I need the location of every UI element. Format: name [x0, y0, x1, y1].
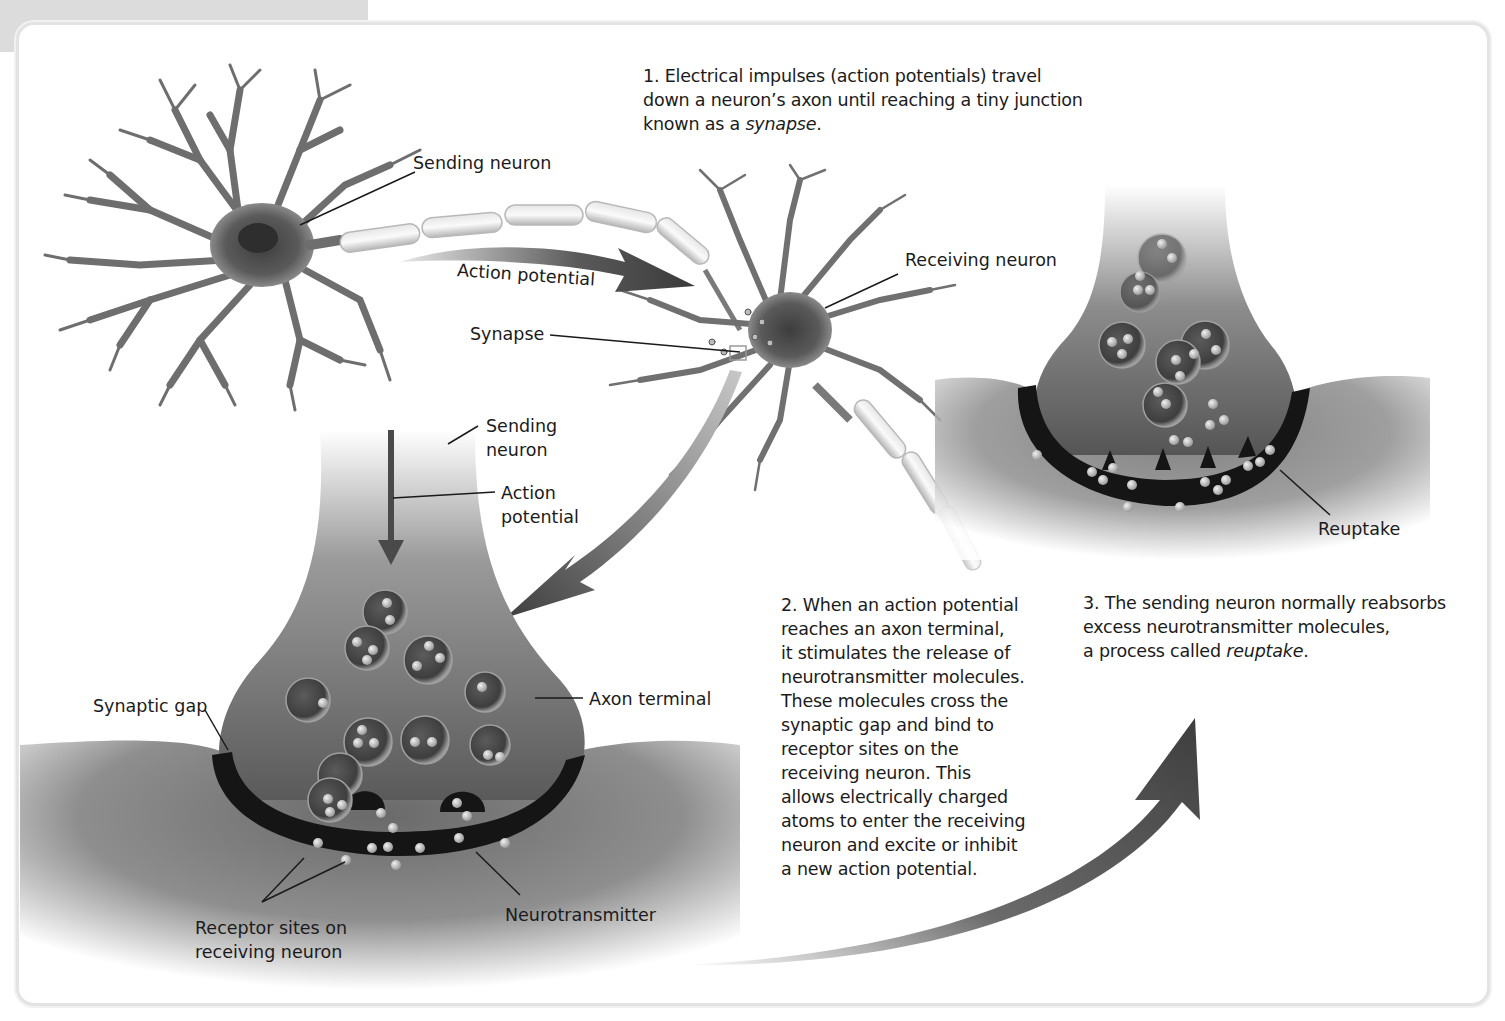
step-3-emphasis: reuptake	[1226, 641, 1303, 661]
label-sending-neuron-terminal-2: neuron	[486, 438, 548, 462]
label-reuptake: Reuptake	[1318, 517, 1400, 541]
reuptake-synapse-illustration	[935, 185, 1430, 560]
label-receptor-sites-1: Receptor sites on	[195, 916, 347, 940]
label-receiving-neuron: Receiving neuron	[905, 248, 1057, 272]
step-3-number: 3.	[1083, 593, 1099, 613]
step-2-line: reaches an axon terminal,	[781, 619, 1004, 639]
step-2-line: synaptic gap and bind to	[781, 715, 994, 735]
step-1-line-1: Electrical impulses (action potentials) …	[665, 66, 1042, 86]
label-sending-neuron-terminal-1: Sending	[486, 414, 557, 438]
label-sending-neuron: Sending neuron	[413, 151, 551, 175]
step-2-line: When an action potential	[803, 595, 1019, 615]
label-synapse: Synapse	[470, 322, 544, 346]
step-1-tail: .	[816, 114, 821, 134]
step-2-line: neuron and excite or inhibit	[781, 835, 1017, 855]
label-synaptic-gap: Synaptic gap	[93, 694, 207, 718]
step-1-caption: 1. Electrical impulses (action potential…	[643, 64, 1083, 136]
step-1-number: 1.	[643, 66, 659, 86]
step-3-caption: 3. The sending neuron normally reabsorbs…	[1083, 591, 1446, 663]
step-3-line-1: The sending neuron normally reabsorbs	[1105, 593, 1446, 613]
step-3-line-3: a process called	[1083, 641, 1226, 661]
label-neurotransmitter: Neurotransmitter	[505, 903, 656, 927]
step-3-line-2: excess neurotransmitter molecules,	[1083, 617, 1390, 637]
step-2-line: a new action potential.	[781, 859, 977, 879]
step-1-emphasis: synapse	[745, 114, 816, 134]
step-1-line-3: known as a	[643, 114, 745, 134]
label-axon-terminal: Axon terminal	[589, 687, 711, 711]
step-2-line: it stimulates the release of	[781, 643, 1010, 663]
step-2-line: receiving neuron. This	[781, 763, 971, 783]
diagram-illustration	[0, 0, 1505, 1021]
step-2-number: 2.	[781, 595, 797, 615]
step-2-caption: 2. When an action potential reaches an a…	[781, 593, 1025, 881]
step-2-line: neurotransmitter molecules.	[781, 667, 1025, 687]
step-2-line: allows electrically charged	[781, 787, 1008, 807]
label-action-potential-2: potential	[501, 505, 579, 529]
receiving-neuron-illustration	[610, 165, 955, 490]
step-1-line-2: down a neuron’s axon until reaching a ti…	[643, 90, 1083, 110]
step-2-line: These molecules cross the	[781, 691, 1008, 711]
label-receptor-sites-2: receiving neuron	[195, 940, 342, 964]
step-2-line: receptor sites on the	[781, 739, 959, 759]
step-2-line: atoms to enter the receiving	[781, 811, 1025, 831]
label-action-potential-1: Action	[501, 481, 556, 505]
step-3-tail: .	[1303, 641, 1308, 661]
